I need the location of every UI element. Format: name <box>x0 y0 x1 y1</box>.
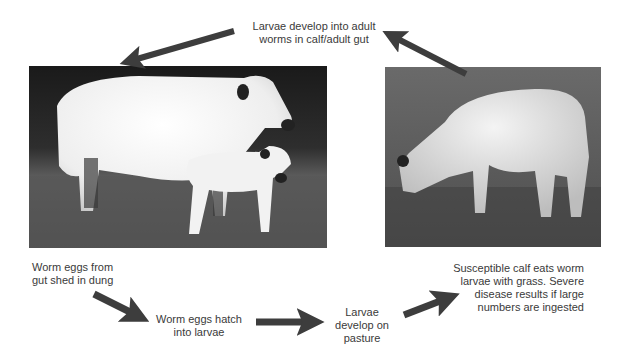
arrow-to-adult-worms-icon <box>392 36 466 74</box>
arrow-to-cow-icon <box>130 31 234 61</box>
arrow-to-eggs-hatch-icon <box>94 294 138 316</box>
cycle-arrows <box>0 0 625 359</box>
arrow-to-calf-eats-icon <box>404 298 448 315</box>
